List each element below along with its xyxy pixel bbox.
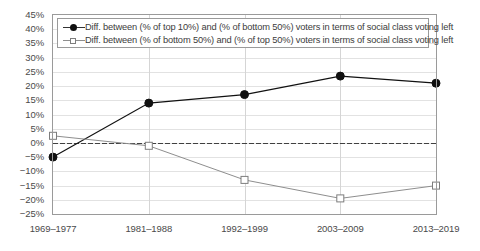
series-0 — [49, 72, 440, 161]
data-point — [145, 142, 152, 149]
legend-entry-0: Diff. between (% of top 10%) and (% of b… — [63, 21, 453, 34]
series-1 — [50, 132, 440, 202]
data-point — [145, 99, 153, 107]
legend-label-1: Diff. between (% of bottom 50%) and (% o… — [85, 35, 453, 46]
x-axis-tick-label: 1981–1988 — [109, 224, 189, 234]
filled-circle-marker-icon — [63, 22, 85, 33]
x-axis-tick-label: 1969–1977 — [13, 224, 93, 234]
x-axis-tick-label: 2013–2019 — [396, 224, 476, 234]
data-point — [337, 195, 344, 202]
chart-legend: Diff. between (% of top 10%) and (% of b… — [57, 18, 429, 48]
data-point — [336, 72, 344, 80]
legend-entry-1: Diff. between (% of bottom 50%) and (% o… — [63, 34, 453, 47]
legend-label-0: Diff. between (% of top 10%) and (% of b… — [85, 22, 453, 33]
hollow-square-marker-icon — [63, 35, 85, 46]
data-point — [241, 176, 248, 183]
data-series-group — [49, 72, 440, 202]
x-axis-tick-label: 2003–2009 — [300, 224, 380, 234]
chart-container: 45%40%35%30%25%20%15%10%5%0%−5%−10%−15%−… — [0, 0, 480, 251]
data-point — [241, 91, 249, 99]
x-axis-tick-label: 1992–1999 — [205, 224, 285, 234]
horizontal-gridlines — [53, 30, 436, 201]
